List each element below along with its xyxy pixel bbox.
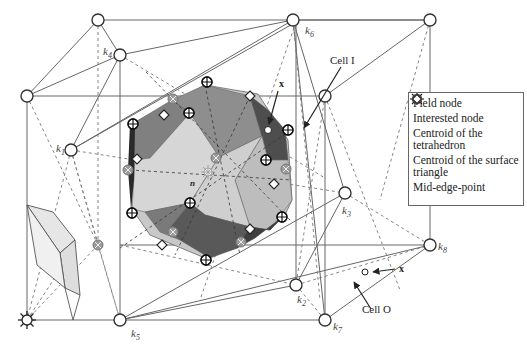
outer-x-point: [362, 269, 368, 275]
interested-node-center: [201, 165, 215, 179]
svg-text:k6: k6: [305, 24, 314, 39]
small-prism: [27, 205, 80, 320]
legend-item-tetrahedron-centroid: Centroid of the tetrahedron: [413, 127, 519, 151]
legend-item-surface-centroid: Centroid of the surface triangle: [413, 154, 519, 178]
mid-edge-point-icon: [409, 93, 425, 105]
svg-text:k8: k8: [438, 240, 447, 255]
inner-x-point: [265, 127, 272, 134]
svg-text:k5: k5: [131, 327, 140, 342]
legend-item-interested-node: Interested node: [413, 112, 519, 124]
svg-text:k3: k3: [342, 204, 351, 219]
cell-o-label: Cell O: [362, 303, 391, 315]
legend: Field node Interested node Centroid of t…: [408, 92, 524, 206]
svg-text:k7: k7: [333, 320, 343, 335]
svg-text:k4: k4: [103, 45, 112, 60]
legend-item-mid-edge-point: Mid-edge-point: [413, 181, 519, 193]
svg-text:k1: k1: [56, 142, 65, 157]
legend-item-field-node: Field node: [413, 97, 519, 109]
x-outer-label: x: [399, 263, 404, 274]
n-label: n: [190, 178, 195, 188]
interested-node: [18, 311, 36, 329]
cell-i-label: Cell I: [330, 54, 355, 66]
x-inner-label: x: [279, 78, 284, 89]
